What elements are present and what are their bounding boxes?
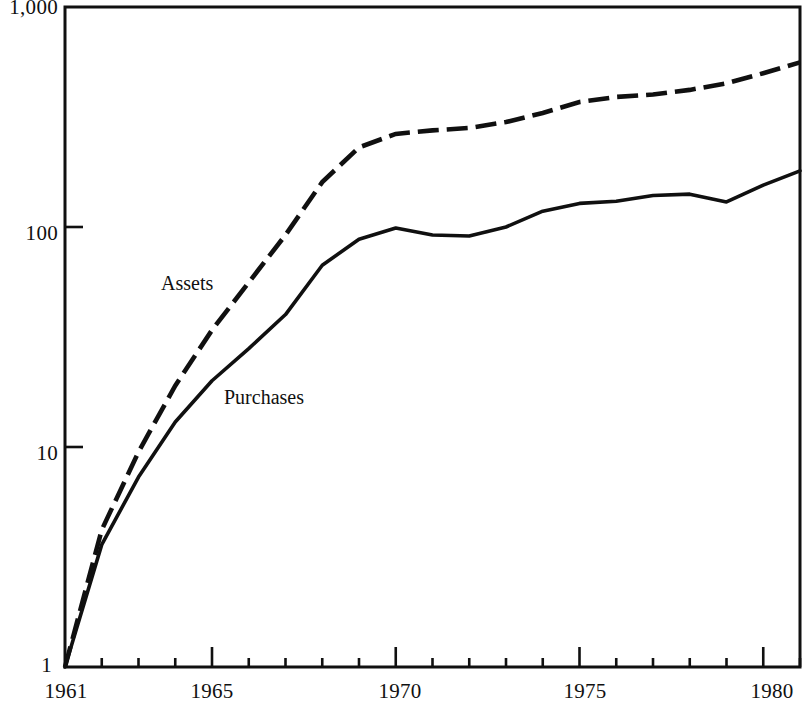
x-axis-ticks (102, 647, 800, 667)
y-axis-ticks (65, 227, 83, 447)
series-line-assets (65, 62, 800, 667)
plot-area (0, 0, 810, 715)
chart-figure: 1,000 100 10 1 1961 1965 1970 1975 1980 … (0, 0, 810, 715)
axis-frame (65, 7, 800, 667)
series-line-purchases (65, 171, 800, 667)
